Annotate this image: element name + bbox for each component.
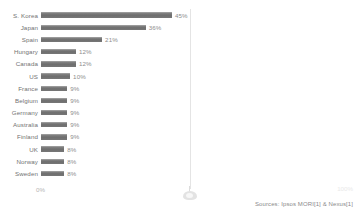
bar-value-label: 12% xyxy=(79,48,92,55)
bar-row: France9% xyxy=(0,82,357,94)
bar-value-label: 9% xyxy=(70,97,79,104)
bar[interactable] xyxy=(41,98,67,103)
bar-row: Hungary12% xyxy=(0,46,357,58)
category-label: Belgium xyxy=(0,97,41,104)
bar-value-label: 8% xyxy=(67,170,76,177)
bar-value-label: 9% xyxy=(70,85,79,92)
bar[interactable] xyxy=(41,25,146,30)
bar-track: 12% xyxy=(41,46,357,58)
bar[interactable] xyxy=(41,12,172,17)
bar[interactable] xyxy=(41,146,64,151)
x-axis: 0% 100% xyxy=(0,186,357,198)
category-label: Finland xyxy=(0,133,41,140)
category-label: France xyxy=(0,85,41,92)
bar-value-label: 9% xyxy=(70,109,79,116)
category-label: Canada xyxy=(0,60,41,67)
bar[interactable] xyxy=(41,134,67,139)
bar-track: 9% xyxy=(41,107,357,119)
bar-track: 9% xyxy=(41,119,357,131)
category-label: Japan xyxy=(0,24,41,31)
bar[interactable] xyxy=(41,159,64,164)
handle-diamond-inner-icon xyxy=(186,193,193,198)
bar-track: 9% xyxy=(41,131,357,143)
bar-row: US10% xyxy=(0,70,357,82)
category-label: Norway xyxy=(0,158,41,165)
bar-row: Japan36% xyxy=(0,21,357,33)
bar-row: Finland9% xyxy=(0,131,357,143)
category-label: Sweden xyxy=(0,170,41,177)
bar[interactable] xyxy=(41,73,70,78)
bar-row: Canada12% xyxy=(0,58,357,70)
bar-row: Belgium9% xyxy=(0,94,357,106)
bar-track: 21% xyxy=(41,33,357,45)
category-label: Australia xyxy=(0,121,41,128)
bar-value-label: 8% xyxy=(67,146,76,153)
category-label: US xyxy=(0,73,41,80)
bar[interactable] xyxy=(41,110,67,115)
bar[interactable] xyxy=(41,49,76,54)
category-label: UK xyxy=(0,146,41,153)
bar-value-label: 12% xyxy=(79,60,92,67)
bar[interactable] xyxy=(41,37,102,42)
bar-chart: S. Korea45%Japan36%Spain21%Hungary12%Can… xyxy=(0,0,357,215)
bar-row: UK8% xyxy=(0,143,357,155)
axis-slider-handle[interactable] xyxy=(180,189,200,201)
bar-rows: S. Korea45%Japan36%Spain21%Hungary12%Can… xyxy=(0,9,357,180)
bar-track: 8% xyxy=(41,167,357,179)
category-label: Hungary xyxy=(0,48,41,55)
bar-track: 12% xyxy=(41,58,357,70)
bar-value-label: 8% xyxy=(67,158,76,165)
bar-row: Sweden8% xyxy=(0,167,357,179)
bar[interactable] xyxy=(41,61,76,66)
chart-title xyxy=(8,0,208,8)
category-label: Spain xyxy=(0,36,41,43)
bar-track: 8% xyxy=(41,143,357,155)
bar-track: 9% xyxy=(41,82,357,94)
bar-track: 10% xyxy=(41,70,357,82)
bar-track: 9% xyxy=(41,94,357,106)
bar-track: 36% xyxy=(41,21,357,33)
bar-value-label: 9% xyxy=(70,133,79,140)
bar-row: Germany9% xyxy=(0,107,357,119)
bar-row: Australia9% xyxy=(0,119,357,131)
bar-value-label: 21% xyxy=(105,36,118,43)
axis-max-label: 100% xyxy=(337,185,353,193)
bar-value-label: 36% xyxy=(149,24,162,31)
source-credit: Sources: Ipsos MORI[1] & Nexus[1] xyxy=(255,200,353,208)
category-label: S. Korea xyxy=(0,12,41,19)
bar-track: 8% xyxy=(41,155,357,167)
bar[interactable] xyxy=(41,86,67,91)
bar-value-label: 9% xyxy=(70,121,79,128)
bar-row: S. Korea45% xyxy=(0,9,357,21)
bar-value-label: 10% xyxy=(73,73,86,80)
bar[interactable] xyxy=(41,122,67,127)
plot-area: S. Korea45%Japan36%Spain21%Hungary12%Can… xyxy=(0,9,357,185)
bar[interactable] xyxy=(41,171,64,176)
category-label: Germany xyxy=(0,109,41,116)
bar-row: Spain21% xyxy=(0,33,357,45)
bar-row: Norway8% xyxy=(0,155,357,167)
bar-value-label: 45% xyxy=(175,12,188,19)
axis-min-label: 0% xyxy=(36,186,45,194)
bar-track: 45% xyxy=(41,9,357,21)
